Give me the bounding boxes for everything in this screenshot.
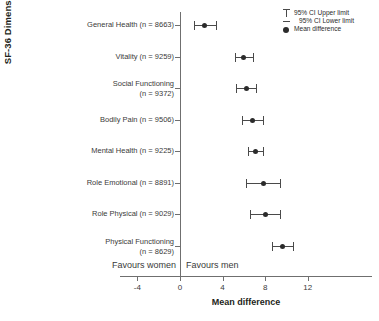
x-axis-tick-label: 12	[296, 283, 320, 292]
category-label: Physical Functioning (n = 8629)	[18, 237, 174, 256]
ci-upper-cap	[263, 147, 264, 156]
mean-difference-dot-icon	[283, 27, 289, 33]
x-axis-tick-label: -4	[125, 283, 149, 292]
legend-label-mean-difference: Mean difference	[294, 25, 341, 32]
favours-women-annotation: Favours women	[92, 260, 176, 270]
ci-lower-cap	[250, 210, 251, 219]
legend-item-ci-lower: 95% CI Lower limit	[278, 17, 376, 25]
category-label: Role Physical (n = 9029)	[18, 209, 174, 219]
x-axis-tick	[180, 277, 181, 281]
category-label: General Health (n = 8663)	[18, 20, 174, 30]
y-axis-tick	[175, 151, 180, 152]
forest-plot-figure: SF-36 Dimension General Health (n = 8663…	[0, 0, 379, 321]
data-row: Role Emotional (n = 8891)	[0, 176, 379, 190]
legend-item-mean-difference: Mean difference	[278, 25, 376, 33]
mean-difference-point	[280, 244, 285, 249]
category-label: Mental Health (n = 9225)	[18, 146, 174, 156]
mean-difference-point	[263, 212, 268, 217]
ci-upper-cap	[253, 53, 254, 62]
x-axis-tick	[308, 277, 309, 281]
y-axis-title: SF-36 Dimension	[2, 0, 13, 85]
ci-lower-cap	[248, 147, 249, 156]
y-axis-tick	[175, 57, 180, 58]
ci-upper-cap	[280, 179, 281, 188]
category-label: Vitality (n = 9259)	[18, 52, 174, 62]
ci-upper-cap	[256, 84, 257, 93]
y-axis-tick	[175, 246, 180, 247]
category-label: Role Emotional (n = 8891)	[18, 178, 174, 188]
x-axis-tick	[223, 277, 224, 281]
data-row: Bodily Pain (n = 9506)	[0, 113, 379, 127]
data-row: Physical Functioning (n = 8629)	[0, 239, 379, 253]
x-axis-tick-label: 4	[211, 283, 235, 292]
y-axis-tick	[175, 214, 180, 215]
data-row: Mental Health (n = 9225)	[0, 144, 379, 158]
ci-lower-cap	[246, 179, 247, 188]
ci-lower-cap	[242, 116, 243, 125]
ci-upper-cap	[280, 210, 281, 219]
category-label: Social Functioning (n = 9372)	[18, 79, 174, 98]
legend-label-ci-upper: 95% CI Upper limit	[294, 9, 349, 16]
y-axis-tick	[175, 183, 180, 184]
legend: 95% CI Upper limit 95% CI Lower limit Me…	[278, 9, 376, 34]
data-row: Vitality (n = 9259)	[0, 50, 379, 64]
ci-upper-cap	[216, 21, 217, 30]
category-label: Bodily Pain (n = 9506)	[18, 115, 174, 125]
mean-difference-point	[250, 118, 255, 123]
mean-difference-point	[202, 23, 207, 28]
ci-lower-cap	[194, 21, 195, 30]
x-axis-spine	[120, 276, 372, 277]
mean-difference-point	[261, 181, 266, 186]
y-axis-tick	[175, 120, 180, 121]
x-axis-title: Mean difference	[120, 297, 372, 307]
ci-upper-cap	[293, 242, 294, 251]
data-row: Social Functioning (n = 9372)	[0, 81, 379, 95]
y-axis-tick	[175, 88, 180, 89]
x-axis-tick	[265, 277, 266, 281]
y-axis-tick	[175, 25, 180, 26]
legend-item-ci-upper: 95% CI Upper limit	[278, 9, 376, 17]
mean-difference-point	[244, 86, 249, 91]
ci-lower-limit-icon	[283, 14, 290, 22]
data-row: Role Physical (n = 9029)	[0, 207, 379, 221]
ci-lower-cap	[235, 53, 236, 62]
ci-upper-cap	[263, 116, 264, 125]
x-axis-tick	[137, 277, 138, 281]
favours-men-annotation: Favours men	[186, 260, 276, 270]
mean-difference-point	[241, 55, 246, 60]
ci-lower-cap	[272, 242, 273, 251]
mean-difference-point	[253, 149, 258, 154]
x-axis-tick-label: 0	[168, 283, 192, 292]
x-axis-tick-label: 8	[253, 283, 277, 292]
legend-label-ci-lower: 95% CI Lower limit	[299, 17, 354, 24]
ci-lower-cap	[236, 84, 237, 93]
